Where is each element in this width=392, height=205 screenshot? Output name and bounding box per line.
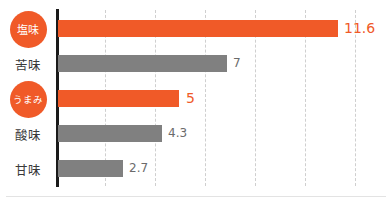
bar-row: うまみ 5 bbox=[0, 84, 392, 114]
bar-3 bbox=[58, 125, 162, 142]
category-label-3: 酸味 bbox=[0, 119, 56, 149]
bar-chart: 塩味 11.6 苦味 7 うまみ 5 bbox=[0, 0, 392, 205]
plot-area: 塩味 11.6 苦味 7 うまみ 5 bbox=[0, 0, 392, 196]
value-label-4: 2.7 bbox=[129, 160, 148, 177]
category-label-4: 甘味 bbox=[0, 154, 56, 184]
category-badge-text: うまみ bbox=[13, 92, 43, 106]
value-label-0: 11.6 bbox=[344, 20, 375, 37]
category-badge-text: 塩味 bbox=[17, 21, 39, 37]
bar-2 bbox=[58, 90, 179, 107]
category-badge-highlight: うまみ bbox=[10, 81, 47, 118]
value-label-3: 4.3 bbox=[168, 125, 187, 142]
bar-1 bbox=[58, 55, 227, 72]
category-label-0: 塩味 bbox=[0, 14, 56, 44]
value-label-2: 5 bbox=[186, 90, 195, 107]
category-badge-highlight: 塩味 bbox=[10, 11, 47, 48]
bar-4 bbox=[58, 160, 123, 177]
category-label-text: 苦味 bbox=[15, 55, 42, 74]
bar-row: 塩味 11.6 bbox=[0, 14, 392, 44]
bar-row: 酸味 4.3 bbox=[0, 119, 392, 149]
category-label-text: 甘味 bbox=[15, 160, 42, 179]
category-label-text: 酸味 bbox=[15, 125, 42, 144]
value-label-1: 7 bbox=[233, 55, 241, 72]
bar-0 bbox=[58, 20, 338, 37]
category-label-1: 苦味 bbox=[0, 49, 56, 79]
bar-row: 甘味 2.7 bbox=[0, 154, 392, 184]
baseline-rule bbox=[6, 196, 386, 197]
category-label-2: うまみ bbox=[0, 84, 56, 114]
bar-row: 苦味 7 bbox=[0, 49, 392, 79]
